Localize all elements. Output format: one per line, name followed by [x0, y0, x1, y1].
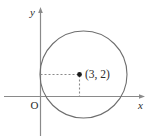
origin-label: O	[31, 99, 39, 111]
x-axis	[4, 94, 145, 99]
y-axis-label: y	[29, 6, 35, 18]
center-point-dot	[77, 72, 82, 77]
y-axis-arrowhead	[38, 7, 43, 13]
center-point-label: (3, 2)	[85, 68, 110, 81]
coordinate-plane-svg: (3, 2) O x y	[0, 0, 157, 140]
circle-diagram-figure: (3, 2) O x y	[0, 0, 157, 140]
x-axis-label: x	[137, 99, 143, 111]
